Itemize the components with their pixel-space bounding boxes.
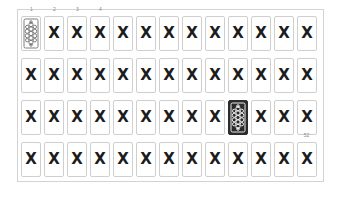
card-slot: X <box>296 12 319 52</box>
card-slot: X <box>204 12 227 52</box>
x-mark-icon: X <box>186 110 198 125</box>
card-marked[interactable]: X <box>136 100 156 135</box>
card-marked[interactable]: X <box>251 100 271 135</box>
card-highlighted[interactable] <box>228 100 248 135</box>
card-slot: X <box>250 138 273 178</box>
x-mark-icon: X <box>301 110 313 125</box>
card-slot: X <box>273 54 296 94</box>
card-marked[interactable]: X <box>251 16 271 51</box>
card-marked[interactable]: X <box>205 142 225 177</box>
card-marked[interactable]: X <box>44 58 64 93</box>
card-slot: 2X <box>43 12 66 52</box>
card-slot: X <box>135 12 158 52</box>
card-slot: X <box>204 96 227 136</box>
x-mark-icon: X <box>48 68 60 83</box>
card-slot: X <box>181 138 204 178</box>
card-marked[interactable]: X <box>67 16 87 51</box>
card-marked[interactable]: X <box>67 142 87 177</box>
card-slot: X <box>181 12 204 52</box>
card-marked[interactable]: X <box>21 142 41 177</box>
card-index-label: 1 <box>20 7 43 12</box>
card-marked[interactable]: X <box>274 58 294 93</box>
card-marked[interactable]: X <box>44 16 64 51</box>
card-marked[interactable]: X <box>159 142 179 177</box>
x-mark-icon: X <box>140 152 152 167</box>
card-marked[interactable]: X <box>228 16 248 51</box>
card-marked[interactable]: X <box>228 142 248 177</box>
card-marked[interactable]: X <box>113 142 133 177</box>
x-mark-icon: X <box>255 26 267 41</box>
x-mark-icon: X <box>71 26 83 41</box>
card-marked[interactable]: X <box>205 16 225 51</box>
card-slot: X <box>66 138 89 178</box>
card-slot: X <box>204 54 227 94</box>
x-mark-icon: X <box>163 152 175 167</box>
x-mark-icon: X <box>301 152 313 167</box>
card-slot: X <box>135 54 158 94</box>
x-mark-icon: X <box>209 68 221 83</box>
card-marked[interactable]: X <box>136 142 156 177</box>
card-marked[interactable]: X <box>113 16 133 51</box>
card-marked[interactable]: X <box>251 142 271 177</box>
card-slot: X <box>158 12 181 52</box>
card-marked[interactable]: X <box>182 58 202 93</box>
card-marked[interactable]: X <box>90 142 110 177</box>
card-row: XXXXXXXXXXXXX <box>20 54 321 95</box>
card-marked[interactable]: X <box>90 100 110 135</box>
card-slot: X <box>20 138 43 178</box>
card-marked[interactable]: X <box>228 58 248 93</box>
x-mark-icon: X <box>25 68 37 83</box>
x-mark-icon: X <box>25 110 37 125</box>
card-marked[interactable]: X <box>274 142 294 177</box>
x-mark-icon: X <box>186 26 198 41</box>
card-marked[interactable]: X <box>205 58 225 93</box>
card-slot: X <box>135 138 158 178</box>
card-marked[interactable]: X <box>44 142 64 177</box>
card-slot: X <box>112 138 135 178</box>
card-marked[interactable]: X <box>90 16 110 51</box>
card-slot: X <box>296 96 319 136</box>
card-marked[interactable]: X <box>90 58 110 93</box>
card-marked[interactable]: X <box>44 100 64 135</box>
card-marked[interactable]: X <box>67 58 87 93</box>
card-marked[interactable]: X <box>113 58 133 93</box>
card-marked[interactable]: X <box>159 100 179 135</box>
card-index-label: 4 <box>89 7 112 12</box>
card-marked[interactable]: X <box>136 16 156 51</box>
card-marked[interactable]: X <box>136 58 156 93</box>
card-marked[interactable]: X <box>159 16 179 51</box>
card-slot: X <box>227 12 250 52</box>
card-marked[interactable]: X <box>21 100 41 135</box>
card-slot: X <box>66 96 89 136</box>
card-marked[interactable]: X <box>297 142 317 177</box>
card-slot: X <box>158 96 181 136</box>
card-slot: 3X <box>66 12 89 52</box>
card-row: XXXXXXXXXXXX <box>20 96 321 137</box>
card-marked[interactable]: X <box>21 58 41 93</box>
card-slot: X <box>89 54 112 94</box>
card-slot: X <box>250 54 273 94</box>
deck-card-grid: 12X3X4XXXXXXXXXXXXXXXXXXXXXXXXXXXXXXXXXX… <box>20 12 321 180</box>
card-marked[interactable]: X <box>159 58 179 93</box>
card-marked[interactable]: X <box>297 58 317 93</box>
x-mark-icon: X <box>163 110 175 125</box>
card-back[interactable] <box>21 16 41 51</box>
card-marked[interactable]: X <box>205 100 225 135</box>
card-marked[interactable]: X <box>274 16 294 51</box>
x-mark-icon: X <box>186 152 198 167</box>
x-mark-icon: X <box>232 26 244 41</box>
card-marked[interactable]: X <box>297 100 317 135</box>
card-marked[interactable]: X <box>182 142 202 177</box>
card-marked[interactable]: X <box>297 16 317 51</box>
card-marked[interactable]: X <box>182 100 202 135</box>
card-marked[interactable]: X <box>113 100 133 135</box>
card-marked[interactable]: X <box>274 100 294 135</box>
x-mark-icon: X <box>301 68 313 83</box>
x-mark-icon: X <box>94 68 106 83</box>
card-slot: X <box>158 54 181 94</box>
card-marked[interactable]: X <box>182 16 202 51</box>
card-marked[interactable]: X <box>67 100 87 135</box>
x-mark-icon: X <box>117 110 129 125</box>
card-marked[interactable]: X <box>251 58 271 93</box>
x-mark-icon: X <box>278 26 290 41</box>
